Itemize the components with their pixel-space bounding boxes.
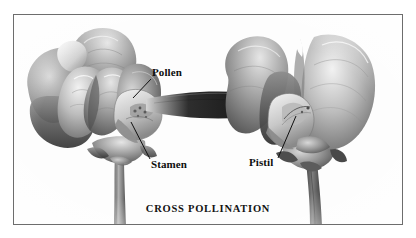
figure-inner-plate (14, 15, 402, 224)
cross-pollination-illustration (14, 15, 402, 224)
figure-caption: CROSS POLLINATION (0, 203, 416, 214)
figure-frame (13, 14, 403, 225)
paper-vignette (14, 15, 402, 224)
label-pollen: Pollen (152, 67, 182, 78)
label-pistil: Pistil (249, 157, 273, 168)
illustration-plate: Pollen Stamen Pistil CROSS POLLINATION (0, 0, 416, 238)
label-stamen: Stamen (151, 159, 187, 170)
